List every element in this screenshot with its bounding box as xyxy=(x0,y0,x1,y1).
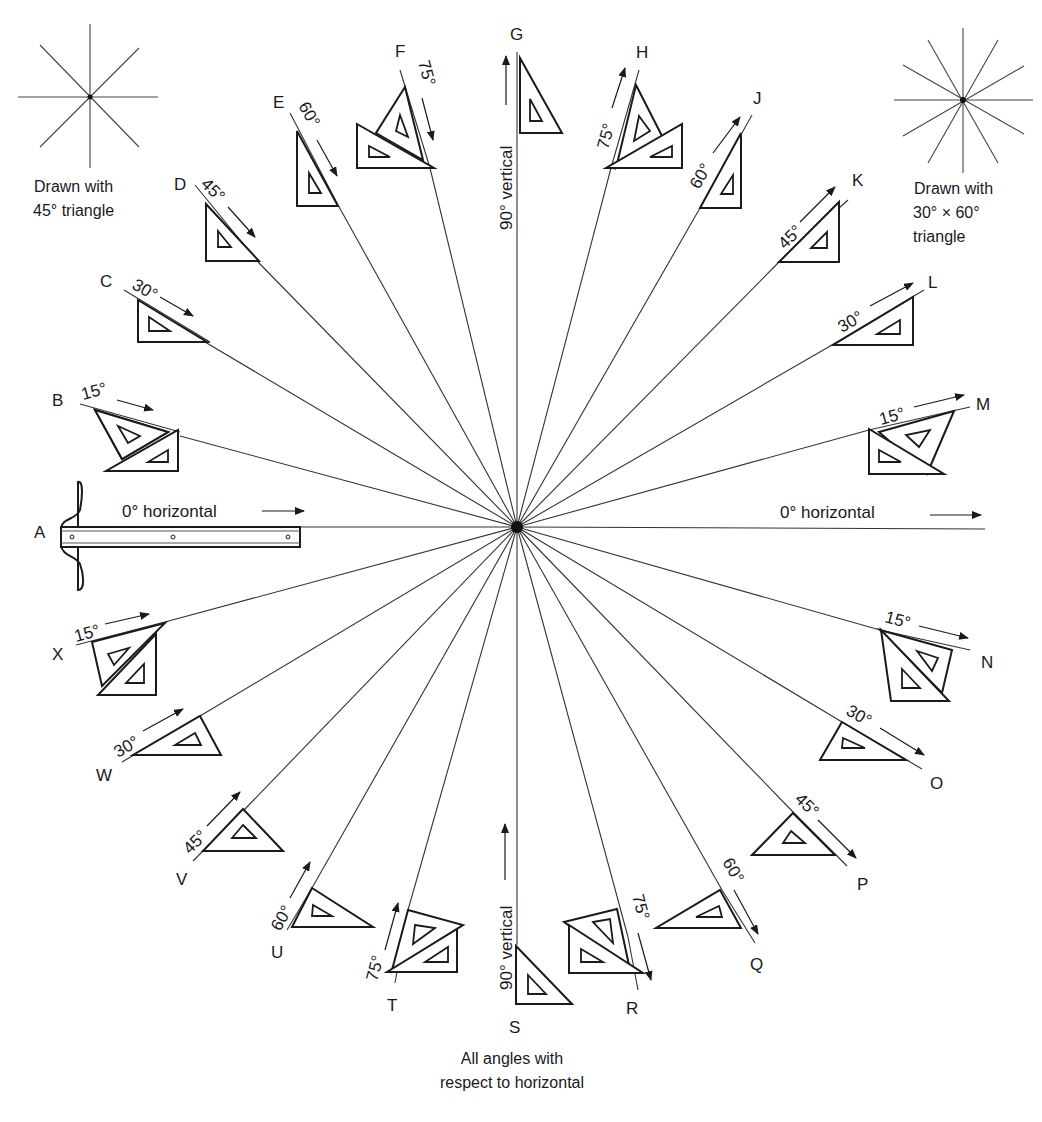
letter-K: K xyxy=(852,171,864,190)
letter-F: F xyxy=(395,42,405,61)
triangle-set-H xyxy=(606,68,682,168)
ray-J xyxy=(517,208,700,527)
letter-V: V xyxy=(176,870,188,889)
angle-label-T: 75° xyxy=(363,953,388,983)
letter-C: C xyxy=(100,272,112,291)
triangle-set-D xyxy=(206,204,259,261)
triangle-set-G xyxy=(506,56,562,133)
legend-left-line2: 45° triangle xyxy=(33,202,114,219)
angle-label-E: 60° xyxy=(295,99,324,131)
star-30x60-triangle xyxy=(894,28,1033,173)
ray-E xyxy=(338,205,517,527)
triangle-set-F xyxy=(357,87,434,168)
letter-J: J xyxy=(753,89,762,108)
ray-horizontal-right xyxy=(517,527,985,529)
triangle-set-U xyxy=(290,862,373,927)
letter-R: R xyxy=(626,999,638,1018)
letter-E: E xyxy=(273,93,284,112)
letter-H: H xyxy=(636,43,648,62)
triangle-set-P xyxy=(752,813,856,858)
letter-M: M xyxy=(976,395,990,414)
ray-B xyxy=(180,436,517,527)
triangle-set-O xyxy=(820,722,924,760)
ray-D xyxy=(258,262,517,527)
horizontal-left-label: 0° horizontal xyxy=(122,502,217,521)
triangle-set-B xyxy=(95,400,178,471)
ray-W xyxy=(200,527,517,716)
ray-H xyxy=(517,168,611,527)
vertical-top-label: 90° vertical xyxy=(497,146,516,230)
triangle-set-E xyxy=(297,131,338,206)
ray-L xyxy=(517,345,832,527)
angle-label-Q: 60° xyxy=(719,855,748,887)
letter-B: B xyxy=(52,391,63,410)
ray-O xyxy=(517,527,842,722)
letter-T: T xyxy=(387,996,397,1015)
angle-label-H: 75° xyxy=(594,121,619,151)
letter-O: O xyxy=(930,774,943,793)
caption-line2: respect to horizontal xyxy=(440,1074,584,1091)
angle-label-F: 75° xyxy=(414,58,439,88)
letter-P: P xyxy=(857,875,868,894)
ray-K xyxy=(517,263,778,527)
horizontal-right-label: 0° horizontal xyxy=(780,503,875,522)
legend-right-line1: Drawn with xyxy=(914,180,993,197)
triangle-set-T xyxy=(385,903,463,972)
triangle-set-Q xyxy=(656,890,758,934)
triangle-set-M xyxy=(869,395,964,474)
angle-label-W: 30° xyxy=(111,732,143,761)
letter-N: N xyxy=(981,653,993,672)
letter-S: S xyxy=(509,1018,520,1037)
letter-G: G xyxy=(510,25,523,44)
star-45-triangle xyxy=(18,24,158,168)
legend-left-line1: Drawn with xyxy=(34,178,113,195)
ray-N xyxy=(517,527,880,630)
letter-A: A xyxy=(34,523,46,542)
angle-label-N: 15° xyxy=(883,608,913,633)
angle-label-V: 45° xyxy=(179,826,211,858)
triangle-set-J xyxy=(700,117,741,208)
legend-right-line3: triangle xyxy=(913,228,966,245)
letter-L: L xyxy=(928,273,937,292)
angle-label-C: 30° xyxy=(129,275,161,304)
ray-P xyxy=(517,527,793,812)
ray-T xyxy=(408,527,517,910)
letter-D: D xyxy=(174,175,186,194)
ray-Q xyxy=(517,527,722,890)
letter-Q: Q xyxy=(750,955,763,974)
angle-label-R: 75° xyxy=(628,892,653,922)
angle-label-U: 60° xyxy=(267,902,296,934)
triangle-set-W xyxy=(133,709,221,755)
letter-X: X xyxy=(52,645,63,664)
ray-C xyxy=(205,342,517,527)
triangle-set-V xyxy=(203,792,283,851)
t-square xyxy=(61,482,304,590)
letter-U: U xyxy=(271,943,283,962)
triangle-set-X xyxy=(92,614,165,695)
letter-W: W xyxy=(96,766,112,785)
triangle-set-N xyxy=(880,626,968,701)
ray-R xyxy=(517,527,628,937)
vertical-bottom-label: 90° vertical xyxy=(497,906,516,990)
angle-label-D: 45° xyxy=(197,174,229,206)
legend-right-line2: 30° × 60° xyxy=(913,204,980,221)
angle-diagram: 0° horizontal A 0° horizontal B 15° C 30… xyxy=(0,0,1042,1122)
center-point xyxy=(511,521,523,533)
caption-line1: All angles with xyxy=(461,1050,563,1067)
angle-label-B: 15° xyxy=(79,379,109,404)
